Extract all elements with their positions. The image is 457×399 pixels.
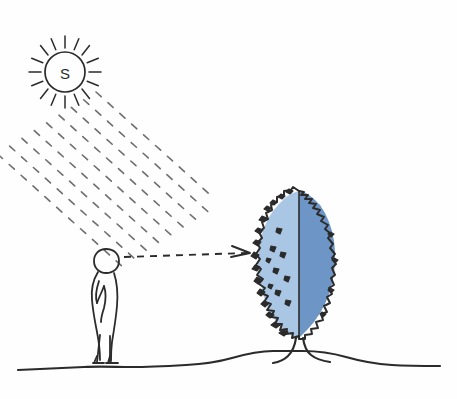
diagram-svg: Solar orientation sketch: observer viewi… [0, 0, 457, 399]
ground-line [18, 351, 440, 370]
arrowhead-icon [231, 246, 250, 257]
diagram-canvas: Solar orientation sketch: observer viewi… [0, 0, 457, 399]
person-forearm [97, 286, 104, 303]
sight-line-dashes [124, 253, 247, 257]
ground-stroke [18, 351, 440, 370]
person-front-torso [111, 273, 117, 361]
sun-label: S [60, 65, 70, 82]
observer-figure [92, 249, 119, 363]
tree-figure [251, 187, 338, 363]
tree-sunlit-half [258, 191, 299, 338]
sunlight-beam [0, 71, 217, 285]
sun-symbol: S [29, 36, 101, 108]
